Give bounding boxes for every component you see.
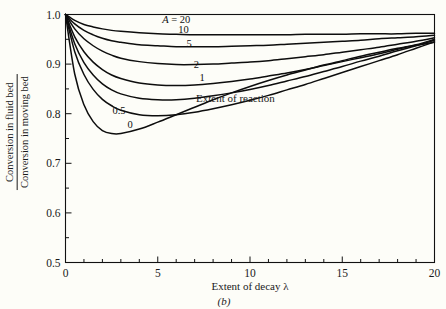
x-axis-label: Extent of decay λ: [211, 280, 289, 292]
curve-A-20: [66, 15, 435, 35]
x-tick-label: 10: [244, 267, 256, 279]
y-axis-tick-labels: 0.50.60.70.80.91.0: [46, 9, 61, 269]
figure-container: 05101520 0.50.60.70.80.91.0 A = 20105210…: [0, 0, 446, 309]
x-axis-ticks: [66, 257, 435, 263]
curve-label-A-0: 0: [127, 119, 132, 130]
curve-A-5: [66, 15, 435, 65]
y-tick-label: 0.9: [46, 58, 61, 70]
y-tick-label: 0.6: [46, 207, 61, 219]
y-tick-label: 0.8: [46, 108, 61, 120]
x-tick-label: 5: [155, 267, 161, 279]
y-tick-label: 0.5: [46, 257, 61, 269]
y-tick-label: 0.7: [46, 157, 61, 169]
y-tick-label: 1.0: [46, 9, 61, 21]
x-tick-label: 0: [63, 267, 69, 279]
curve-A-2: [66, 15, 435, 86]
x-tick-label: 20: [429, 267, 441, 279]
curve-label-A-2: 2: [194, 59, 199, 70]
curve-A-0: [66, 15, 435, 135]
x-axis-tick-labels: 05101520: [63, 267, 441, 279]
curve-label-A-10: 10: [178, 24, 189, 35]
curve-label-A-0.5: 0.5: [112, 105, 125, 116]
panel-label: (b): [218, 295, 231, 308]
curve-label-A-1: 1: [199, 72, 204, 83]
extent-of-reaction-annotation: Extent of reaction: [196, 92, 275, 104]
curve-label-A-5: 5: [186, 38, 191, 49]
x-tick-label: 15: [337, 267, 349, 279]
chart-svg: 05101520 0.50.60.70.80.91.0 A = 20105210…: [0, 0, 446, 309]
data-curves: [66, 15, 435, 135]
